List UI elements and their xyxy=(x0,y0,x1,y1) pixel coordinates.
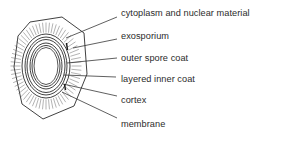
label-cytoplasm-and-nuclear-material: cytoplasm and nuclear material xyxy=(121,8,250,18)
cytoplasm-core xyxy=(34,48,58,85)
label-membrane: membrane xyxy=(121,119,165,129)
label-layered-inner-coat: layered inner coat xyxy=(121,74,195,84)
label-outer-spore-coat: outer spore coat xyxy=(121,53,188,63)
endospore-diagram-figure: cytoplasm and nuclear material exosporiu… xyxy=(0,0,282,143)
label-exosporium: exosporium xyxy=(121,31,169,41)
label-cortex: cortex xyxy=(121,95,146,105)
